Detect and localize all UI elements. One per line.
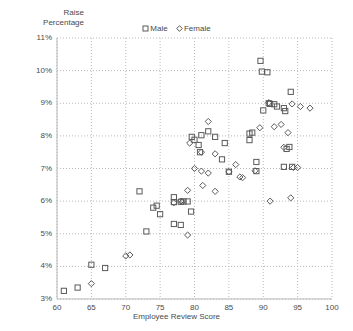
x-tick-label: 95 [286,303,310,312]
data-point-male [196,142,201,147]
data-point-female [185,232,191,238]
y-tick-label: 8% [28,131,52,140]
data-point-female [212,151,218,157]
data-point-female [271,124,277,130]
data-point-female [205,118,211,124]
data-point-female [307,105,313,111]
data-point-male [199,133,204,138]
data-point-female [200,182,206,188]
data-point-female [257,125,263,131]
data-point-female [285,130,291,136]
y-tick-label: 10% [28,66,52,75]
data-point-male [254,159,259,164]
x-tick-label: 90 [251,303,275,312]
data-point-male [151,205,156,210]
x-tick-label: 70 [114,303,138,312]
data-point-male [188,209,193,214]
x-tick-label: 100 [320,303,344,312]
x-tick-label: 85 [217,303,241,312]
data-point-female [297,103,303,109]
x-tick-label: 65 [79,303,103,312]
data-point-male [75,285,80,290]
x-tick-label: 80 [183,303,207,312]
data-point-male [154,203,159,208]
data-point-male [247,138,252,143]
y-tick-label: 11% [28,33,52,42]
data-point-male [137,189,142,194]
x-tick-label: 75 [148,303,172,312]
data-point-male [61,288,66,293]
y-tick-label: 5% [28,229,52,238]
data-point-female [289,101,295,107]
data-point-male [222,140,227,145]
data-point-male [178,222,183,227]
data-point-male [213,134,218,139]
data-point-female [212,188,218,194]
data-point-male [171,221,176,226]
data-point-male [219,157,224,162]
data-point-female [185,187,191,193]
scatter-chart: Raise Percentage Male Female Employee Re… [0,0,353,331]
y-tick-label: 7% [28,164,52,173]
x-tick-label: 60 [45,303,69,312]
data-point-female [205,170,211,176]
data-points [61,58,313,293]
data-point-female [278,121,284,127]
y-tick-label: 6% [28,196,52,205]
data-point-male [206,129,211,134]
data-point-male [288,89,293,94]
data-point-male [258,58,263,63]
y-tick-label: 4% [28,261,52,270]
plot-area [0,0,353,331]
data-point-female [233,161,239,167]
y-tick-label: 9% [28,98,52,107]
data-point-female [288,195,294,201]
y-tick-label: 3% [28,294,52,303]
